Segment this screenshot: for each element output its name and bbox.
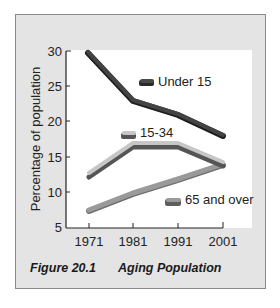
xtick-1991: 1991 bbox=[164, 234, 193, 249]
y-ticks bbox=[66, 51, 71, 192]
ytick-10: 10 bbox=[48, 185, 62, 200]
xtick-1971: 1971 bbox=[75, 234, 104, 249]
y-tick-labels: 30 25 20 15 10 5 bbox=[48, 44, 62, 235]
legend-label-65-and-over: 65 and over bbox=[185, 192, 254, 207]
series-under-15 bbox=[88, 52, 223, 136]
xtick-2001: 2001 bbox=[209, 234, 238, 249]
ytick-30: 30 bbox=[48, 44, 62, 59]
legend-under-15: Under 15 bbox=[139, 74, 211, 89]
ytick-25: 25 bbox=[48, 79, 62, 94]
x-tick-labels: 1971 1981 1991 2001 bbox=[75, 234, 238, 249]
y-axis-label: Percentage of population bbox=[28, 67, 43, 212]
figure-title: Aging Population bbox=[118, 261, 221, 275]
legend-65-and-over: 65 and over bbox=[165, 192, 254, 207]
ytick-20: 20 bbox=[48, 114, 62, 129]
legend-15-34: 15-34 bbox=[121, 125, 173, 140]
figure-caption: Figure 20.1Aging Population bbox=[30, 261, 221, 275]
legend-label-15-34: 15-34 bbox=[140, 125, 173, 140]
figure-number: Figure 20.1 bbox=[30, 261, 96, 275]
x-ticks bbox=[89, 222, 223, 228]
ytick-5: 5 bbox=[55, 220, 62, 235]
xtick-1981: 1981 bbox=[119, 234, 148, 249]
ytick-15: 15 bbox=[48, 150, 62, 165]
legend-label-under-15: Under 15 bbox=[158, 74, 211, 89]
